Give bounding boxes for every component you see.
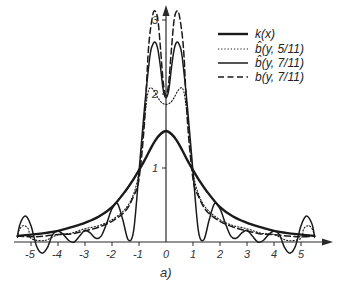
x-tick-label: 0 [163,248,170,260]
x-tick-label: -1 [133,248,143,260]
legend-item: b̂(y, 7/11) [218,55,304,70]
x-tick-label: 1 [190,248,196,260]
legend-label: b̂(y, 7/11) [255,55,304,70]
x-tick-label: 4 [271,248,277,260]
chart: -5-4-3-2-1012345 123 k(x)b̂(y, 5/11)b̂(y… [0,0,341,296]
legend-item: b(y, 7/11) [218,70,304,84]
legend-label: k(x) [255,27,275,41]
x-tick-label: -4 [52,248,62,260]
x-tick-label: -3 [79,248,90,260]
y-axis-arrow-icon [163,5,170,16]
x-tick-label: 3 [244,248,251,260]
legend-label: b(y, 7/11) [255,70,304,84]
x-axis-arrow-icon [322,239,333,246]
x-tick-label: -5 [25,248,36,260]
x-tick-label: 5 [298,248,305,260]
x-tick-label: 2 [216,248,223,260]
legend-item: k(x) [218,27,275,41]
x-ticks: -5-4-3-2-1012345 [25,242,305,260]
legend-label: b̂(y, 5/11) [255,41,304,56]
subplot-label: a) [160,265,172,280]
x-tick-label: -2 [106,248,116,260]
y-tick-label: 2 [151,88,158,100]
legend-item: b̂(y, 5/11) [218,41,304,56]
legend: k(x)b̂(y, 5/11)b̂(y, 7/11)b(y, 7/11) [218,27,304,84]
y-tick-label: 1 [152,162,158,174]
